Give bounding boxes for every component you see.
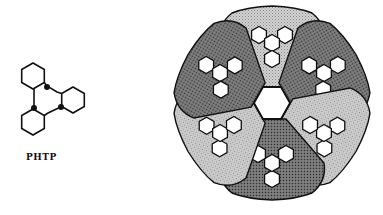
central-channel-hexagon xyxy=(254,87,290,119)
crystal-packing-diagram xyxy=(0,0,383,215)
